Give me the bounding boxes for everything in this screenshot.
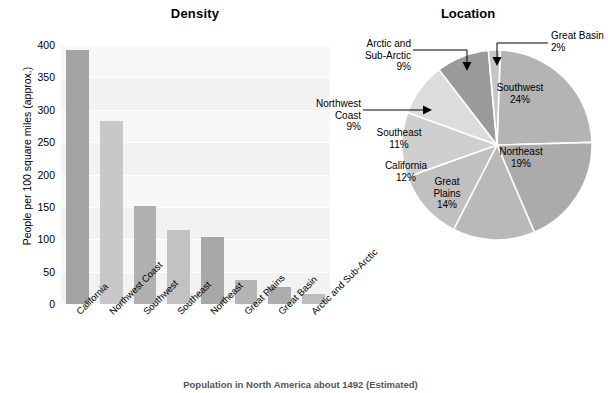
callout-arctic-line2: Sub-Arctic <box>335 50 411 62</box>
callout-nwc-line1: Northwest <box>295 98 361 110</box>
y-tick-150: 150 <box>0 202 55 212</box>
callout-nwc-value: 9% <box>295 121 361 133</box>
y-tick-350: 350 <box>0 72 55 82</box>
bar-chart-plot-area <box>61 45 330 304</box>
callout-northwest-coast: Northwest Coast 9% <box>295 98 361 133</box>
y-tick-300: 300 <box>0 105 55 115</box>
slice-great-plains-value: 14% <box>414 199 480 211</box>
y-tick-100: 100 <box>0 234 55 244</box>
slice-label-southeast: Southeast 11% <box>355 127 443 150</box>
slice-label-southwest: Southwest 24% <box>465 82 575 105</box>
y-tick-200: 200 <box>0 170 55 180</box>
bar-chart-title: Density <box>60 6 330 21</box>
slice-california-name: California <box>362 160 450 172</box>
location-pie-chart: Location Southwest 24%Northeast 19%Great… <box>335 0 601 393</box>
slice-southwest-value: 24% <box>465 94 575 106</box>
callout-arctic-and-sub-arctic: Arctic and Sub-Arctic 9% <box>335 38 411 73</box>
slice-label-northeast: Northeast 19% <box>471 146 571 169</box>
slice-great-plains-line2: Plains <box>414 188 480 200</box>
y-tick-250: 250 <box>0 137 55 147</box>
density-bar-chart: Density People per 100 square miles (app… <box>0 0 335 393</box>
y-tick-400: 400 <box>0 40 55 50</box>
callout-great-basin-value: 2% <box>551 42 608 54</box>
slice-label-california: California 12% <box>362 160 450 183</box>
bar-series <box>61 45 330 304</box>
slice-southeast-value: 11% <box>355 139 443 151</box>
callout-nwc-line2: Coast <box>295 110 361 122</box>
callout-great-basin-line1: Great Basin <box>551 30 608 42</box>
slice-california-value: 12% <box>362 172 450 184</box>
slice-northeast-value: 19% <box>471 158 571 170</box>
bar-california[interactable] <box>66 50 89 304</box>
slice-northeast-name: Northeast <box>471 146 571 158</box>
slice-southwest-name: Southwest <box>465 82 575 94</box>
y-tick-50: 50 <box>0 267 55 277</box>
callout-great-basin: Great Basin 2% <box>551 30 608 53</box>
slice-southeast-name: Southeast <box>355 127 443 139</box>
callout-arctic-line1: Arctic and <box>335 38 411 50</box>
bar-northwest-coast[interactable] <box>100 121 123 304</box>
figure-caption: Population in North America about 1492 (… <box>0 379 601 390</box>
callout-arctic-value: 9% <box>335 61 411 73</box>
y-tick-0: 0 <box>0 299 55 309</box>
